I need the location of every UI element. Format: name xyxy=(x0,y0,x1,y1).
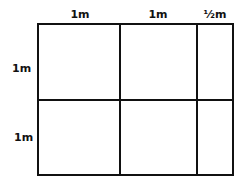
left-label-row-2: 1m xyxy=(14,131,33,144)
left-label-row-1: 1m xyxy=(12,62,31,75)
top-label-col-2: 1m xyxy=(148,8,167,21)
top-label-col-1: 1m xyxy=(70,8,89,21)
row-divider xyxy=(37,99,234,101)
top-label-col-3: ½m xyxy=(204,8,227,21)
